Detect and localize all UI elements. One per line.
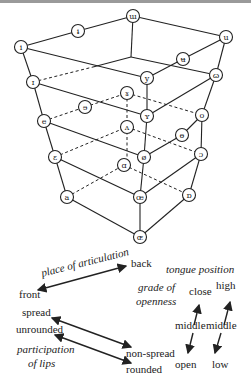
svg-text:ɤ: ɤ — [125, 89, 130, 98]
svg-text:u: u — [223, 33, 228, 42]
back-label: back — [131, 258, 152, 269]
of-lips-label: of lips — [28, 358, 55, 369]
non-spread-label: non-spread — [126, 348, 175, 359]
middle-openness-label: middle — [175, 320, 206, 331]
svg-text:ɒ: ɒ — [186, 191, 191, 200]
vowel-node: ɛ — [49, 151, 62, 164]
vowel-nodes: ɯ ɨ i u ʉ y ɷ ɪ ɤ ɘ e ʏ o ʌ ɵ ɛ ø ɔ ɑ a … — [15, 10, 233, 244]
vowel-node: ø — [138, 151, 151, 164]
unrounded-label: unrounded — [16, 324, 63, 335]
low-arrow — [215, 333, 221, 353]
svg-text:ɶ: ɶ — [137, 233, 144, 242]
middle-tongue-label: middle — [206, 320, 237, 331]
vowel-node: ʌ — [121, 121, 134, 134]
svg-text:ɔ: ɔ — [199, 150, 204, 159]
svg-text:i: i — [20, 43, 23, 52]
high-label: high — [216, 280, 236, 291]
participation-label: participation — [17, 344, 74, 355]
vowel-node: a — [61, 191, 74, 204]
front-label: front — [19, 289, 40, 300]
svg-text:ø: ø — [142, 153, 147, 162]
svg-text:ɷ: ɷ — [213, 71, 220, 80]
vowel-node: ɶ — [134, 231, 147, 244]
vowel-node: ɔ — [195, 148, 208, 161]
vowel-node: ɘ — [79, 101, 92, 114]
vowel-node: ɯ — [127, 10, 140, 23]
vowel-node: œ — [134, 191, 147, 204]
vowel-node: ɷ — [210, 69, 223, 82]
vowel-node: ɤ — [121, 87, 134, 100]
vowel-node: ɨ — [72, 25, 85, 38]
tongue-position-label: tongue position — [166, 264, 234, 275]
svg-text:ʏ: ʏ — [144, 112, 149, 121]
spread-label: spread — [22, 307, 51, 318]
svg-text:ɑ: ɑ — [121, 161, 126, 170]
vowel-node: ɵ — [176, 129, 189, 142]
vowel-node: u — [220, 31, 233, 44]
low-label: low — [212, 359, 229, 370]
vowel-node: e — [38, 115, 51, 128]
svg-text:o: o — [200, 111, 205, 120]
grade-of-label: grade of — [138, 282, 175, 293]
close-label: close — [189, 286, 212, 297]
svg-text:y: y — [144, 74, 150, 83]
svg-text:ɪ: ɪ — [32, 78, 35, 87]
vowel-node: ɒ — [183, 189, 196, 202]
open-label: open — [175, 359, 196, 370]
vowel-node: y — [141, 72, 154, 85]
rounded-label: rounded — [126, 364, 162, 375]
open-arrow — [188, 333, 193, 353]
svg-text:ɘ: ɘ — [83, 103, 88, 112]
vowel-node: ʉ — [177, 53, 190, 66]
svg-text:ʌ: ʌ — [124, 123, 130, 132]
svg-text:ʉ: ʉ — [180, 55, 185, 64]
svg-text:œ: œ — [136, 193, 144, 202]
svg-text:a: a — [65, 193, 70, 202]
svg-text:ɨ: ɨ — [77, 27, 80, 36]
vowel-node: ɪ — [27, 76, 40, 89]
vowel-node: ɑ — [118, 159, 131, 172]
openness-label: openness — [136, 296, 176, 307]
vowel-node: o — [196, 109, 209, 122]
svg-text:e: e — [42, 117, 47, 126]
svg-text:ɵ: ɵ — [180, 131, 185, 140]
vowel-node: i — [15, 41, 28, 54]
vowel-node: ʏ — [141, 110, 154, 123]
svg-text:ɯ: ɯ — [129, 12, 137, 21]
svg-text:ɛ: ɛ — [53, 153, 57, 162]
